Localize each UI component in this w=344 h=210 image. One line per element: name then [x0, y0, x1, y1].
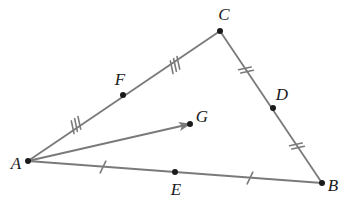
point-G	[187, 121, 193, 127]
point-C	[217, 28, 223, 34]
geometry-figure: ABCDEFG	[0, 0, 344, 210]
label-E: E	[171, 181, 181, 198]
label-F: F	[115, 71, 125, 88]
segment-AG	[28, 124, 190, 161]
label-B: B	[328, 177, 338, 194]
point-D	[270, 105, 276, 111]
label-G: G	[196, 108, 208, 125]
point-B	[319, 180, 325, 186]
point-E	[172, 169, 178, 175]
figure-canvas	[0, 0, 344, 210]
points-layer	[25, 28, 325, 186]
label-C: C	[218, 6, 229, 23]
label-A: A	[11, 155, 21, 172]
label-D: D	[276, 86, 288, 103]
tick-marks-layer	[67, 56, 304, 184]
segments-layer	[28, 31, 322, 183]
point-A	[25, 158, 31, 164]
point-F	[120, 92, 126, 98]
